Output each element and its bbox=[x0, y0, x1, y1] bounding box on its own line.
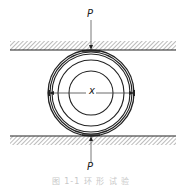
figure-caption: 图 1-1 环 形 试 验 bbox=[0, 178, 182, 186]
bottom-load-label: P bbox=[87, 162, 93, 172]
top-load-label: P bbox=[87, 9, 93, 19]
top-load-arrow bbox=[89, 20, 93, 50]
bottom-load-arrow bbox=[89, 136, 93, 163]
top-plate bbox=[10, 41, 176, 50]
bottom-plate bbox=[10, 136, 176, 145]
diameter-label: x bbox=[88, 86, 96, 96]
